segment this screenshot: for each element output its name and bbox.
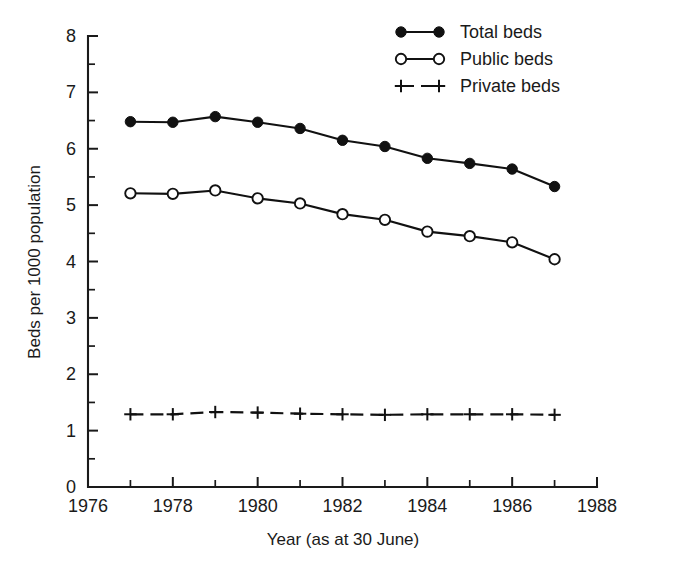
data-point <box>422 153 432 163</box>
x-tick-label: 1978 <box>153 496 193 516</box>
legend-label: Public beds <box>460 49 553 69</box>
data-point <box>125 116 135 126</box>
line-chart: 0123456781976197819801982198419861988 To… <box>0 0 674 568</box>
data-point <box>252 117 262 127</box>
chart-legend: Total bedsPublic bedsPrivate beds <box>395 22 560 96</box>
y-tick-label: 1 <box>66 421 76 441</box>
x-tick-label: 1980 <box>238 496 278 516</box>
legend-item-total-beds: Total beds <box>396 22 542 42</box>
legend-label: Private beds <box>460 76 560 96</box>
series-total-beds <box>125 111 560 191</box>
y-tick-label: 4 <box>66 252 76 272</box>
legend-label: Total beds <box>460 22 542 42</box>
data-point <box>210 111 220 121</box>
data-point <box>380 141 390 151</box>
x-tick-label: 1982 <box>322 496 362 516</box>
x-axis-title: Year (as at 30 June) <box>267 530 419 549</box>
legend-item-private-beds: Private beds <box>395 76 560 96</box>
y-tick-label: 0 <box>66 477 76 497</box>
data-point <box>380 215 390 225</box>
data-point <box>337 209 347 219</box>
data-point <box>210 185 220 195</box>
data-point <box>337 135 347 145</box>
data-point <box>295 123 305 133</box>
data-point <box>252 193 262 203</box>
data-point <box>125 188 135 198</box>
data-point <box>507 164 517 174</box>
x-tick-label: 1976 <box>68 496 108 516</box>
y-tick-label: 3 <box>66 308 76 328</box>
y-tick-label: 2 <box>66 364 76 384</box>
legend-marker <box>434 54 444 64</box>
series-line <box>130 117 554 187</box>
data-point <box>295 198 305 208</box>
chart-container: 0123456781976197819801982198419861988 To… <box>0 0 674 568</box>
data-point <box>168 117 178 127</box>
legend-marker <box>434 27 444 37</box>
data-point <box>465 158 475 168</box>
axis-tick-labels: 0123456781976197819801982198419861988 <box>66 26 617 516</box>
data-point <box>549 254 559 264</box>
y-tick-label: 6 <box>66 139 76 159</box>
y-tick-label: 5 <box>66 195 76 215</box>
data-point <box>507 237 517 247</box>
x-tick-label: 1986 <box>492 496 532 516</box>
data-series <box>124 111 561 421</box>
y-tick-label: 8 <box>66 26 76 46</box>
data-point <box>168 189 178 199</box>
y-tick-label: 7 <box>66 82 76 102</box>
series-private-beds <box>124 406 561 421</box>
legend-marker <box>396 54 406 64</box>
x-tick-label: 1988 <box>577 496 617 516</box>
x-tick-label: 1984 <box>407 496 447 516</box>
series-public-beds <box>125 185 560 264</box>
legend-item-public-beds: Public beds <box>396 49 553 69</box>
y-axis-title: Beds per 1000 population <box>25 165 44 359</box>
legend-marker <box>396 27 406 37</box>
data-point <box>465 231 475 241</box>
data-point <box>549 181 559 191</box>
data-point <box>422 226 432 236</box>
series-line <box>130 190 554 259</box>
